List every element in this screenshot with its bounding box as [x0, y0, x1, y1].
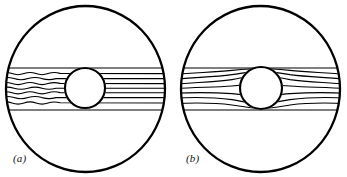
panel-b — [174, 6, 347, 172]
panel-label-b: (b) — [186, 152, 199, 164]
inner-inclusion-circle-b — [240, 67, 282, 109]
figure-svg — [0, 0, 347, 177]
panel-a — [0, 6, 174, 172]
panel-label-a: (a) — [13, 152, 26, 164]
inner-inclusion-circle-a — [65, 68, 105, 108]
figure-container: (a) (b) — [0, 0, 347, 177]
